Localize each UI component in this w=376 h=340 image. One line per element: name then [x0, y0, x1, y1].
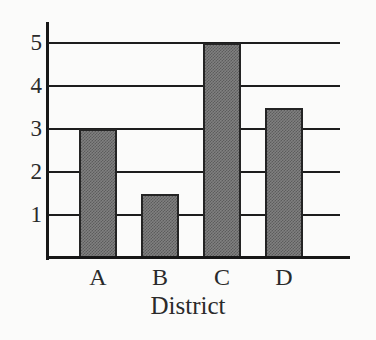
bar-a	[79, 129, 117, 258]
y-tick-label-2: 2	[8, 160, 42, 183]
y-tick-label-3: 3	[8, 117, 42, 140]
x-axis-line	[46, 256, 350, 259]
bar-chart: 5 4 3 2 1 A B C D District	[0, 0, 376, 340]
x-tick-label-d: D	[265, 264, 303, 290]
gridline-5	[48, 42, 340, 44]
bar-c	[203, 43, 241, 258]
x-tick-label-a: A	[79, 264, 117, 290]
bar-d	[265, 108, 303, 259]
y-tick-label-1: 1	[8, 203, 42, 226]
bar-b	[141, 194, 179, 259]
gridline-4	[48, 85, 340, 87]
x-axis-title: District	[0, 292, 376, 320]
x-tick-label-b: B	[141, 264, 179, 290]
x-tick-label-c: C	[203, 264, 241, 290]
y-axis-line	[46, 22, 49, 260]
y-tick-label-5: 5	[8, 31, 42, 54]
y-tick-label-4: 4	[8, 74, 42, 97]
